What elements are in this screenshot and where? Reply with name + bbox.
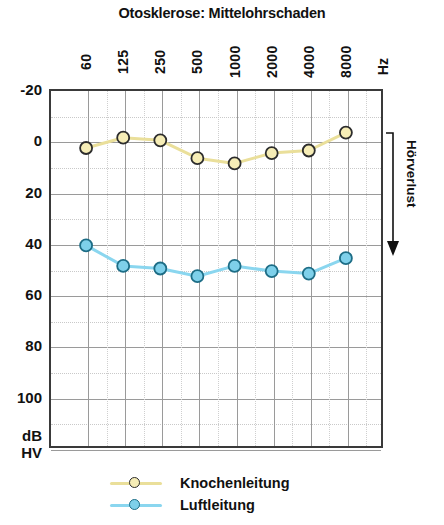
chart-legend: KnochenleitungLuftleitung: [110, 472, 290, 516]
gridline-horizontal: [51, 194, 381, 195]
gridline-vertical-minor: [366, 91, 367, 446]
y-axis-tick-label: 80: [0, 337, 42, 354]
gridline-vertical: [274, 91, 275, 446]
gridline-horizontal: [51, 347, 381, 348]
x-axis-tick-label: 125: [115, 40, 131, 84]
x-axis-tick-label: 500: [189, 40, 205, 84]
x-axis-tick-label: 250: [152, 40, 168, 84]
gridline-horizontal: [51, 322, 381, 323]
legend-swatch: [110, 498, 162, 512]
gridline-vertical: [162, 91, 163, 446]
gridline-vertical-minor: [329, 91, 330, 446]
gridline-horizontal: [51, 450, 381, 451]
gridline-horizontal: [51, 245, 381, 246]
legend-item: Luftleitung: [110, 494, 290, 516]
x-axis-unit-hz: Hz: [375, 58, 391, 75]
arrow-down-icon: [387, 241, 399, 256]
gridline-horizontal: [51, 399, 381, 400]
x-axis-tick-label: 4000: [301, 40, 317, 84]
gridline-vertical: [199, 91, 200, 446]
x-axis-tick-label: 2000: [264, 40, 280, 84]
gridline-horizontal: [51, 271, 381, 272]
x-axis-tick-label: 1000: [227, 40, 243, 84]
gridline-horizontal: [51, 424, 381, 425]
gridline-horizontal: [51, 373, 381, 374]
gridline-vertical-minor: [107, 91, 108, 446]
legend-swatch: [110, 476, 162, 490]
y-axis-tick-label: 20: [0, 183, 42, 200]
plot-area: [49, 89, 383, 448]
gridline-horizontal: [51, 219, 381, 220]
y-axis-tick-label: 40: [0, 234, 42, 251]
y-axis-unit-db: dB: [0, 427, 42, 444]
gridline-vertical: [125, 91, 126, 446]
annotation-bracket: [386, 133, 393, 249]
gridline-horizontal: [51, 142, 381, 143]
gridline-horizontal: [51, 168, 381, 169]
x-axis-tick-label: 8000: [338, 40, 354, 84]
gridline-vertical: [348, 91, 349, 446]
hoerverlust-label: Hörverlust: [404, 140, 419, 208]
chart-title: Otosklerose: Mittelohrschaden: [0, 5, 444, 21]
gridline-vertical-minor: [255, 91, 256, 446]
y-axis-tick-label: 0: [0, 132, 42, 149]
y-axis-unit-hv: HV: [0, 444, 42, 461]
gridline-vertical-minor: [218, 91, 219, 446]
y-axis-unit: dBHV: [0, 427, 42, 461]
legend-marker-icon: [129, 499, 140, 510]
gridline-vertical-minor: [144, 91, 145, 446]
gridline-vertical: [311, 91, 312, 446]
audiogram-chart: Otosklerose: Mittelohrschaden -200204060…: [0, 0, 444, 525]
y-axis-tick-label: -20: [0, 81, 42, 98]
legend-item: Knochenleitung: [110, 472, 290, 494]
gridline-vertical: [237, 91, 238, 446]
x-axis-tick-label: 60: [78, 40, 94, 84]
gridline-vertical-minor: [292, 91, 293, 446]
gridline-horizontal: [51, 117, 381, 118]
legend-label: Knochenleitung: [180, 475, 290, 491]
legend-marker-icon: [129, 477, 140, 488]
y-axis-tick-label: 100: [0, 388, 42, 405]
y-axis-tick-label: 60: [0, 286, 42, 303]
legend-label: Luftleitung: [180, 497, 255, 513]
gridline-vertical-minor: [181, 91, 182, 446]
gridline-horizontal: [51, 296, 381, 297]
gridline-vertical: [88, 91, 89, 446]
